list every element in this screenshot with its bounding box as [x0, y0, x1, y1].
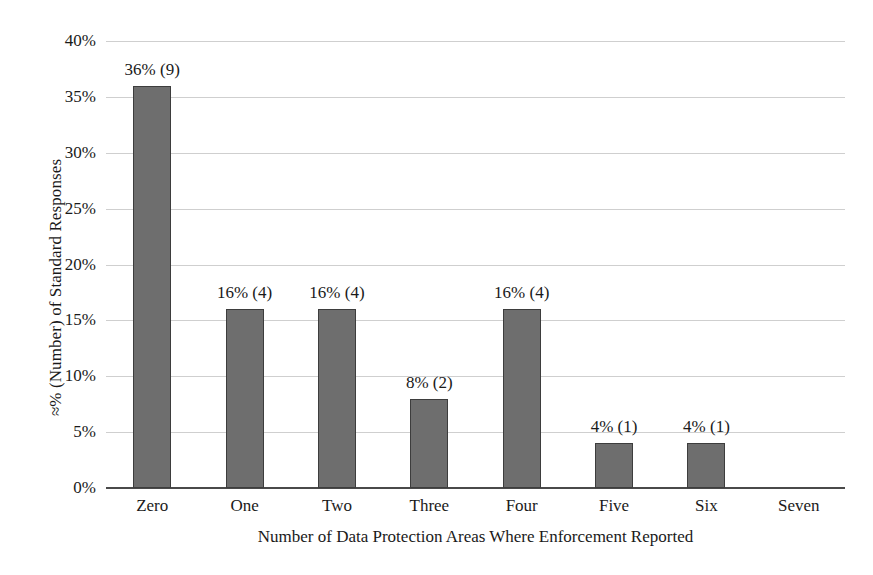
bar-value-label: 4% (1) [591, 417, 638, 437]
bar-group: 16% (4)One [198, 41, 290, 488]
bar-group: 4% (1)Five [568, 41, 660, 488]
x-axis-category-label: Five [599, 496, 629, 516]
bar[interactable] [133, 86, 171, 488]
y-axis-tick-label: 25% [65, 199, 96, 219]
bar-group: 4% (1)Six [660, 41, 752, 488]
bar-value-label: 36% (9) [125, 60, 180, 80]
bar-group: 16% (4)Two [291, 41, 383, 488]
bar[interactable] [503, 309, 541, 488]
bar[interactable] [410, 399, 448, 488]
bar[interactable] [595, 443, 633, 488]
plot-area: 0%5%10%15%20%25%30%35%40% 36% (9)Zero16%… [106, 41, 845, 488]
y-axis-tick-label: 10% [65, 366, 96, 386]
x-axis-category-label: Two [322, 496, 352, 516]
bar-group: 8% (2)Three [383, 41, 475, 488]
bar-value-label: 16% (4) [217, 283, 272, 303]
x-axis-category-label: Six [695, 496, 718, 516]
bar-value-label: 16% (4) [494, 283, 549, 303]
x-axis-category-label: Zero [136, 496, 168, 516]
bar-chart: ≈% (Number) of Standard Responses 0%5%10… [0, 0, 873, 575]
y-axis-tick-label: 0% [73, 478, 96, 498]
x-axis-category-label: One [230, 496, 258, 516]
bar-value-label: 8% (2) [406, 373, 453, 393]
x-axis-category-label: Four [506, 496, 538, 516]
y-axis-tick-label: 5% [73, 422, 96, 442]
bar-group: Seven [753, 41, 845, 488]
bar-value-label: 16% (4) [309, 283, 364, 303]
y-axis-tick-label: 30% [65, 143, 96, 163]
bar[interactable] [318, 309, 356, 488]
bar-series: 36% (9)Zero16% (4)One16% (4)Two8% (2)Thr… [106, 41, 845, 488]
bar-group: 36% (9)Zero [106, 41, 198, 488]
y-axis-tick-label: 20% [65, 255, 96, 275]
bar-value-label: 4% (1) [683, 417, 730, 437]
y-axis-tick-label: 35% [65, 87, 96, 107]
x-axis-category-label: Three [409, 496, 449, 516]
bar[interactable] [226, 309, 264, 488]
y-axis-tick-label: 15% [65, 310, 96, 330]
y-axis-tick-label: 40% [65, 31, 96, 51]
bar[interactable] [687, 443, 725, 488]
bar-group: 16% (4)Four [476, 41, 568, 488]
x-axis-category-label: Seven [778, 496, 820, 516]
x-axis-title: Number of Data Protection Areas Where En… [106, 527, 845, 547]
